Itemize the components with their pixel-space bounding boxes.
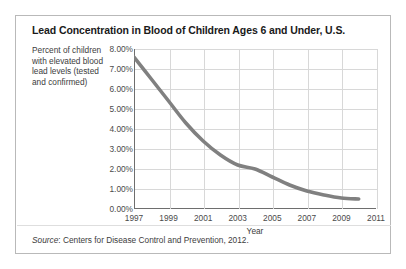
y-axis-tick-label: 2.00% xyxy=(87,164,133,174)
y-axis-tick-label: 8.00% xyxy=(87,44,133,54)
y-axis-tick-label: 7.00% xyxy=(87,64,133,74)
y-axis-tick-label: 6.00% xyxy=(87,84,133,94)
source-body: : Centers for Disease Control and Preven… xyxy=(58,235,248,245)
y-axis-tick-label: 3.00% xyxy=(87,144,133,154)
series-line-path xyxy=(134,57,359,199)
y-axis-tick-label: 5.00% xyxy=(87,104,133,114)
plot-area-wrapper: 8.00%7.00%6.00%5.00%4.00%3.00%2.00%1.00%… xyxy=(16,16,392,255)
y-axis-tick-label: 4.00% xyxy=(87,124,133,134)
source-label: Source xyxy=(32,235,58,245)
y-axis-tick-label: 1.00% xyxy=(87,184,133,194)
x-gridline xyxy=(377,49,378,209)
figure-panel: Lead Concentration in Blood of Children … xyxy=(15,15,391,254)
footer-divider xyxy=(17,225,391,226)
x-axis-tick-label: 2011 xyxy=(356,213,396,223)
line-series xyxy=(134,49,376,209)
source-note: Source: Centers for Disease Control and … xyxy=(32,235,249,245)
